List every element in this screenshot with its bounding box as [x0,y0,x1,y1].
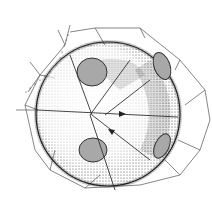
patch-lower-left [79,138,107,162]
patch-upper-left [77,58,107,86]
diagram-figure [0,0,212,201]
polyhedron-sphere-diagram [0,0,212,201]
